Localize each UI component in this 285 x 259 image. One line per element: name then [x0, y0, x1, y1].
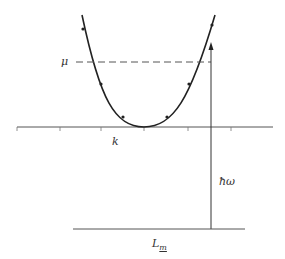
L-label-subscript: m [159, 243, 167, 252]
k-label: k [112, 136, 119, 147]
mu-label: μ [61, 56, 68, 67]
hbar-omega-label: ħω [219, 176, 235, 187]
diagram-canvas [0, 0, 285, 259]
axis-ticks [17, 127, 231, 131]
arrowhead-icon [209, 42, 214, 50]
data-points [81, 23, 213, 118]
dispersion-parabola [82, 15, 215, 127]
L-label: Lm [152, 238, 167, 252]
